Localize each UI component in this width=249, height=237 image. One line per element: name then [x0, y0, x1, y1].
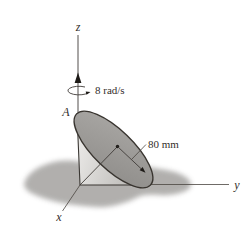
- radius-dimension-label: 80 mm: [148, 138, 179, 150]
- y-axis-label: y: [233, 178, 240, 192]
- rotation-curl-arrowhead-icon: [86, 92, 91, 95]
- rotating-cone-figure: z y x A 8 rad/s 80 mm: [0, 0, 249, 237]
- diagram-canvas: z y x A 8 rad/s 80 mm: [0, 0, 249, 237]
- omega-arrowhead-icon: [75, 73, 82, 84]
- angular-velocity-label: 8 rad/s: [95, 84, 125, 96]
- point-a-label: A: [61, 105, 70, 119]
- x-axis-label: x: [55, 210, 62, 224]
- z-axis-label: z: [75, 20, 81, 34]
